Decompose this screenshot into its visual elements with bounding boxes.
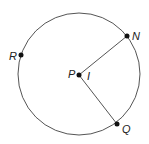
circle-diagram: P N Q R I bbox=[0, 0, 149, 144]
point-n bbox=[125, 34, 130, 39]
angle-label: I bbox=[87, 70, 90, 82]
label-p: P bbox=[68, 68, 76, 80]
point-p bbox=[77, 73, 82, 78]
label-n: N bbox=[132, 30, 140, 42]
label-r: R bbox=[9, 50, 17, 62]
label-q: Q bbox=[122, 123, 131, 135]
point-r bbox=[19, 53, 24, 58]
segment-pq bbox=[79, 75, 117, 124]
point-q bbox=[115, 122, 120, 127]
